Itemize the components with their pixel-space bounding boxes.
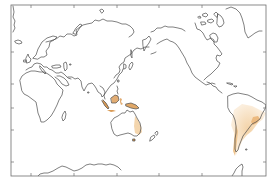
shaded-region-sumatra bbox=[102, 100, 109, 109]
axis-ticks bbox=[11, 5, 266, 176]
coastlines bbox=[13, 6, 266, 176]
coastline-antarctica bbox=[38, 164, 121, 176]
coastline-hispaniola bbox=[234, 86, 237, 87]
coastline-philippines bbox=[117, 86, 118, 94]
coastline-black-sea bbox=[52, 65, 61, 68]
coastline-sakhalin bbox=[131, 50, 132, 58]
coastline-ireland bbox=[24, 60, 26, 62]
coastline-japan bbox=[129, 62, 133, 70]
coastline-sri-lanka bbox=[88, 92, 89, 93]
shaded-region-sulawesi bbox=[120, 98, 123, 105]
coastline-africa bbox=[20, 71, 63, 122]
coastline-aral bbox=[70, 64, 71, 65]
coastline-severnaya bbox=[100, 9, 104, 13]
coastline-cuba bbox=[227, 83, 233, 85]
world-map bbox=[0, 0, 274, 188]
coastline-taiwan bbox=[118, 80, 119, 82]
coastline-greenland bbox=[226, 7, 262, 38]
coastline-caspian bbox=[64, 62, 67, 71]
coastline-indochina bbox=[100, 86, 105, 99]
coastline-kamchatka bbox=[143, 36, 151, 51]
coastline-aleutians bbox=[151, 52, 156, 54]
coastline-korea bbox=[124, 64, 126, 69]
coastline-south-asia bbox=[68, 69, 123, 97]
coastline-arctic-islands bbox=[198, 12, 218, 25]
coastline-eurasia-north bbox=[46, 19, 134, 42]
coastline-baffin bbox=[217, 14, 224, 27]
coastline-scandinavia bbox=[33, 36, 57, 59]
coastline-britain bbox=[26, 54, 31, 63]
shaded-region-java bbox=[107, 110, 116, 112]
coastline-iceland bbox=[15, 40, 22, 44]
coastline-alaska bbox=[151, 26, 185, 32]
coastline-antarctic-peninsula bbox=[232, 164, 243, 176]
coastline-madagascar bbox=[62, 111, 66, 121]
coastline-greenland-west-edge bbox=[13, 6, 15, 32]
map-frame bbox=[11, 5, 266, 176]
coastline-north-america-east bbox=[195, 23, 222, 80]
coastline-new-zealand bbox=[150, 131, 158, 141]
coastline-falklands bbox=[246, 149, 247, 150]
